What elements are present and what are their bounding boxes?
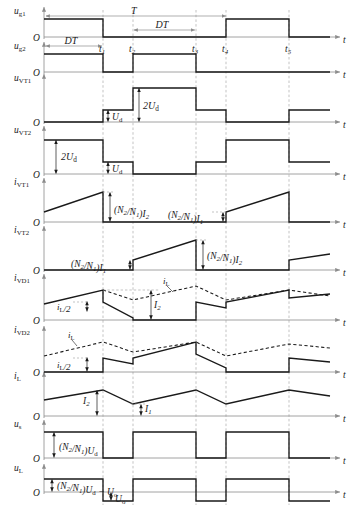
origin-label-i_vt1: O (33, 218, 40, 228)
dimension-label-Uo: Uo (115, 494, 126, 505)
y-axis-label-u_s: us (14, 419, 22, 430)
dimension-label-i-vt2-r: (N2/N1)I2 (207, 251, 243, 266)
waveform-u-g1 (44, 19, 330, 37)
axis-label-t-i_vd2: t (343, 370, 346, 380)
origin-label-u_s: O (33, 454, 40, 464)
y-axis-label-i_vt1: iVT1 (14, 177, 29, 188)
waveform-u-g2 (44, 54, 330, 72)
dimension-label-i-vt1-r: (N2/N1)I1 (168, 210, 203, 225)
origin-label-i_vd2: O (33, 368, 40, 378)
y-axis-label-u_vt1: uVT1 (14, 73, 31, 84)
time-marker-label-t3: t3 (192, 44, 199, 55)
origin-label-i_vt2: O (33, 266, 40, 276)
label-iL-vd1: iL (163, 276, 170, 287)
waveform-svg: OtOtOtOtOtOtOtOtOtOtOtug1ug2uVT1uVT2iVT1… (0, 0, 347, 511)
dimension-label-iL-half-1: iL/2 (57, 302, 71, 314)
dimension-label-iL-half-2: iL/2 (57, 360, 71, 372)
axis-label-t-i_vd1: t (343, 318, 346, 328)
origin-label-u_vt1: O (33, 118, 40, 128)
time-marker-label-t1: t1 (99, 44, 105, 55)
y-axis-label-i_vd1: iVD1 (14, 273, 30, 284)
y-axis-label-u_g1: ug1 (14, 6, 26, 17)
dimension-label-DT-2: DT (64, 35, 79, 46)
axis-label-t-u_s: t (343, 456, 346, 466)
origin-label-u_g2: O (33, 68, 40, 78)
y-axis-label-i_vt2: iVT2 (14, 225, 30, 236)
origin-label-u_l: O (33, 488, 40, 498)
axis-label-t-u_vt1: t (343, 120, 346, 130)
dimension-label-Ud-2: Ud (112, 164, 123, 175)
dimension-label-i-vt1: (N2/N1)I2 (114, 205, 150, 220)
leader-iL-vd1 (167, 286, 173, 292)
origin-label-u_vt2: O (33, 170, 40, 180)
y-axis-label-i_vd2: iVD2 (14, 325, 30, 336)
axis-label-t-u_g2: t (343, 70, 346, 80)
dimension-label-I2-iL: I2 (82, 396, 90, 407)
axis-label-t-i_vt1: t (343, 220, 346, 230)
time-marker-label-t5: t5 (285, 44, 292, 55)
dimension-label-2Ud-1: 2Ud (143, 100, 159, 113)
time-marker-label-t4: t4 (222, 44, 229, 55)
waveform-figure: OtOtOtOtOtOtOtOtOtOtOtug1ug2uVT1uVT2iVT1… (0, 0, 347, 511)
leader-iL-vd2 (72, 340, 77, 346)
axis-label-t-u_vt2: t (343, 172, 346, 182)
waveform-u-vt2 (44, 140, 330, 174)
y-axis-label-u_vt2: uVT2 (14, 125, 32, 136)
dimension-label-Ud-1: Ud (112, 112, 123, 123)
y-axis-label-u_l: uL (14, 463, 23, 474)
dimension-label-2Ud-2: 2Ud (61, 151, 77, 164)
origin-label-i_l: O (33, 412, 40, 422)
dimension-label-i-vt2-l: (N2/N1)I1 (71, 259, 106, 274)
dimension-label-I1-iL: I1 (144, 404, 152, 415)
dimension-label-DT-1: DT (155, 19, 170, 30)
axis-label-t-u_g1: t (343, 35, 346, 45)
dimension-label-us: (N2/N1)Ud (59, 442, 98, 457)
label-iL-vd2: iL (68, 330, 75, 341)
y-axis-label-i_l: iL (14, 371, 21, 382)
origin-label-u_g1: O (33, 33, 40, 43)
axis-label-t-i_vt2: t (343, 268, 346, 278)
axis-label-t-i_l: t (343, 414, 346, 424)
axis-label-t-u_l: t (343, 490, 346, 500)
dimension-label-uL-hi: (N2/N1)Ud − Uo (57, 481, 118, 498)
origin-label-i_vd1: O (33, 316, 40, 326)
time-marker-label-t2: t2 (129, 44, 136, 55)
waveform-u-vt1 (44, 88, 330, 122)
y-axis-label-u_g2: ug2 (14, 41, 26, 52)
dimension-label-T: T (131, 5, 138, 16)
dimension-label-I2-vd1: I2 (153, 300, 161, 311)
